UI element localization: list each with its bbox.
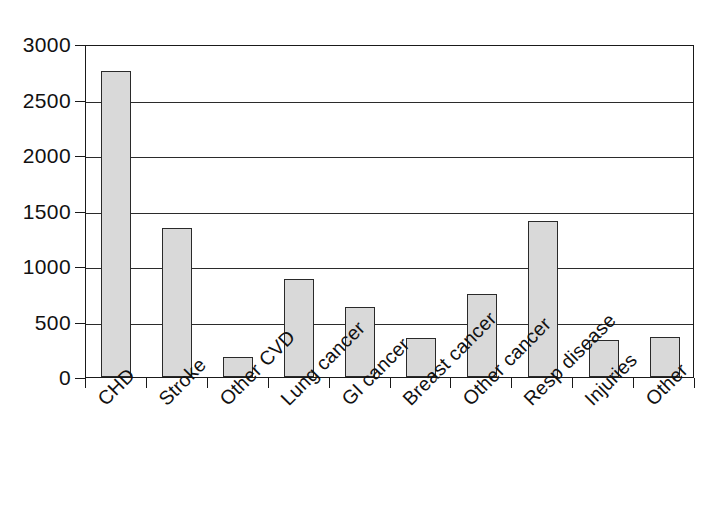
x-axis-tick xyxy=(146,378,147,388)
x-axis-tick xyxy=(85,378,86,388)
x-axis-tick xyxy=(633,378,634,388)
x-axis-tick xyxy=(207,378,208,388)
x-axis-category-label: Other xyxy=(641,359,692,410)
x-axis-tick xyxy=(572,378,573,388)
bar-chart-figure: 050010001500200025003000 CHDStrokeOther … xyxy=(0,0,726,521)
x-axis-tick xyxy=(390,378,391,388)
x-axis: CHDStrokeOther CVDLung cancerGI cancerBr… xyxy=(0,0,726,521)
x-axis-category-label: Stroke xyxy=(154,353,211,410)
x-axis-category-label: CHD xyxy=(93,364,140,411)
x-axis-tick xyxy=(450,378,451,388)
x-axis-tick xyxy=(511,378,512,388)
x-axis-tick xyxy=(694,378,695,388)
x-axis-tick xyxy=(268,378,269,388)
x-axis-tick xyxy=(329,378,330,388)
